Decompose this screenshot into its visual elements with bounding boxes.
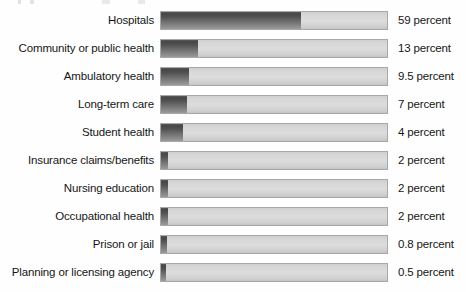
bar-value-label: 2 percent (398, 209, 466, 224)
bar-track (160, 39, 388, 58)
horizontal-bar-chart: Hospitals59 percentCommunity or public h… (0, 0, 466, 292)
bar-fill (161, 180, 168, 197)
bar-category-label: Hospitals (0, 13, 154, 28)
bar-value-label: 0.8 percent (398, 237, 466, 252)
bar-value-label: 2 percent (398, 153, 466, 168)
bar-row: Occupational health2 percent (0, 207, 466, 227)
bar-fill (161, 96, 187, 113)
bar-value-label: 59 percent (398, 13, 466, 28)
bar-row: Community or public health13 percent (0, 39, 466, 59)
bar-fill (161, 236, 167, 253)
bar-fill (161, 40, 198, 57)
bar-fill (161, 264, 166, 281)
bar-category-label: Occupational health (0, 209, 154, 224)
bar-track (160, 95, 388, 114)
bar-row: Hospitals59 percent (0, 11, 466, 31)
cropped-title-artifact (18, 0, 218, 4)
bar-fill (161, 124, 183, 141)
bar-track (160, 67, 388, 86)
bar-category-label: Student health (0, 125, 154, 140)
bar-track (160, 263, 388, 282)
bar-value-label: 13 percent (398, 41, 466, 56)
bar-row: Planning or licensing agency0.5 percent (0, 263, 466, 283)
bar-category-label: Long-term care (0, 97, 154, 112)
bar-category-label: Ambulatory health (0, 69, 154, 84)
bar-row: Long-term care7 percent (0, 95, 466, 115)
bar-category-label: Prison or jail (0, 237, 154, 252)
bar-track (160, 179, 388, 198)
bar-value-label: 0.5 percent (398, 265, 466, 280)
bar-fill (161, 68, 189, 85)
bar-fill (161, 12, 301, 29)
bar-row: Student health4 percent (0, 123, 466, 143)
bar-track (160, 151, 388, 170)
bar-track (160, 235, 388, 254)
bar-row: Prison or jail0.8 percent (0, 235, 466, 255)
bar-category-label: Insurance claims/benefits (0, 153, 154, 168)
bar-row: Ambulatory health9.5 percent (0, 67, 466, 87)
bar-value-label: 7 percent (398, 97, 466, 112)
bar-value-label: 9.5 percent (398, 69, 466, 84)
bar-value-label: 2 percent (398, 181, 466, 196)
bar-value-label: 4 percent (398, 125, 466, 140)
bar-track (160, 207, 388, 226)
bar-category-label: Community or public health (0, 41, 154, 56)
bar-track (160, 11, 388, 30)
bar-fill (161, 208, 168, 225)
bar-row: Insurance claims/benefits2 percent (0, 151, 466, 171)
bar-category-label: Nursing education (0, 181, 154, 196)
bar-row: Nursing education2 percent (0, 179, 466, 199)
bar-track (160, 123, 388, 142)
bar-category-label: Planning or licensing agency (0, 265, 154, 280)
bar-fill (161, 152, 168, 169)
